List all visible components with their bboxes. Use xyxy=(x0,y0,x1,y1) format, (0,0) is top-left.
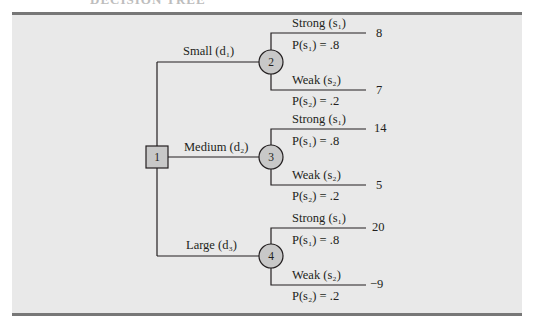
payoff-value: 14 xyxy=(374,121,387,135)
payoff-value: 8 xyxy=(376,26,382,40)
chance-node-3-label: 3 xyxy=(259,150,283,164)
payoff-value: 20 xyxy=(372,220,385,234)
probability-label: P(s₁) = .8 xyxy=(292,38,339,52)
payoff-value: 5 xyxy=(376,178,382,192)
decision-label-small: Small (d₁) xyxy=(183,44,234,58)
state-label-weak: Weak (s₂) xyxy=(292,168,341,182)
chance-node-4-label: 4 xyxy=(259,249,283,263)
payoff-value: 7 xyxy=(376,83,382,97)
payoff-value: −9 xyxy=(370,277,383,291)
decision-label-large: Large (d₃) xyxy=(186,238,237,252)
decision-label-medium: Medium (d₂) xyxy=(184,140,248,154)
state-label-strong: Strong (s₁) xyxy=(292,16,346,30)
chance-node-2-label: 2 xyxy=(259,55,283,69)
probability-label: P(s₂) = .2 xyxy=(292,289,339,303)
state-label-strong: Strong (s₁) xyxy=(292,211,346,225)
probability-label: P(s₂) = .2 xyxy=(292,189,339,203)
probability-label: P(s₁) = .8 xyxy=(292,233,339,247)
decision-node-1-label: 1 xyxy=(145,150,169,164)
state-label-weak: Weak (s₂) xyxy=(292,268,341,282)
state-label-weak: Weak (s₂) xyxy=(292,73,341,87)
state-label-strong: Strong (s₁) xyxy=(292,112,346,126)
probability-label: P(s₂) = .2 xyxy=(292,94,339,108)
probability-label: P(s₁) = .8 xyxy=(292,134,339,148)
